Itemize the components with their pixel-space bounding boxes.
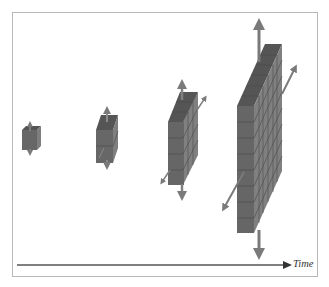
growth-diagram: Time [0, 0, 329, 287]
stage-cube [22, 124, 41, 153]
stage-column [96, 110, 118, 166]
diagonal-arrow-icon [282, 68, 295, 94]
diagram-canvas [0, 0, 329, 287]
diagonal-arrow-icon [197, 98, 205, 110]
time-arrowhead-icon [283, 261, 292, 269]
stage-wall [224, 24, 295, 254]
time-axis-label: Time [293, 258, 313, 269]
stage-slab [162, 84, 205, 196]
